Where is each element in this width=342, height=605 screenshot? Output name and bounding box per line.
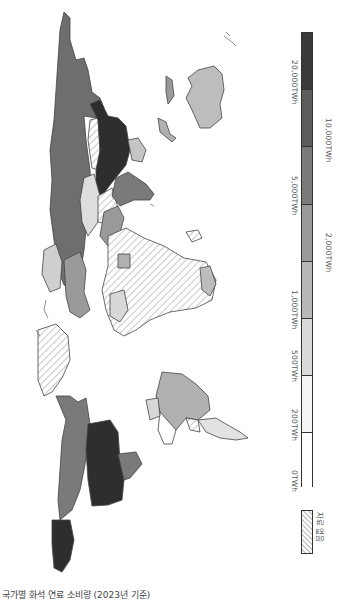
tick-label-10000: 10,000TWh [324, 118, 333, 163]
legend-seg-5000-10000 [302, 146, 312, 204]
region-andes [186, 418, 200, 432]
region-europe [64, 252, 90, 318]
tick-label-500: 500TWh [290, 350, 299, 382]
legend-seg-10000-20000 [302, 89, 312, 146]
no-data-label: 자료 없음 [315, 512, 326, 542]
region-japan [166, 76, 174, 104]
map-caption: 국가별 화석 연료 소비량 (2023년 기준) [2, 588, 150, 601]
legend-seg-500-1000 [302, 318, 312, 375]
tick-label-20000: 20,000TWh [290, 60, 299, 105]
region-australia [186, 66, 224, 128]
legend-seg-2000-5000 [302, 204, 312, 261]
region-greenland [38, 324, 70, 396]
region-venezuela [146, 398, 160, 420]
tick-label-2000: 2,000TWh [324, 233, 333, 273]
no-data-swatch [301, 510, 313, 554]
world-map [0, 0, 280, 580]
region-nigeria [118, 254, 130, 268]
region-india [112, 172, 154, 206]
island-sri-lanka [150, 204, 154, 206]
legend-seg-1000-2000 [302, 261, 312, 318]
tick-label-200: 200TWh [290, 409, 299, 441]
legend-seg-20000-plus [302, 33, 312, 89]
legend-seg-200-500 [302, 375, 312, 432]
legend-color-bar [301, 32, 313, 487]
legend-seg-0-200 [302, 432, 312, 487]
region-se-asia [128, 138, 146, 162]
region-madagascar [186, 230, 202, 242]
region-argentina [198, 418, 248, 440]
island-uk [44, 300, 48, 318]
tick-label-1000: 1,000TWh [290, 290, 299, 330]
region-alaska [52, 520, 74, 572]
region-canada [56, 396, 90, 520]
tick-label-5000: 5,000TWh [290, 176, 299, 216]
region-indonesia [158, 118, 176, 142]
tick-label-0: 0TWh [290, 470, 299, 492]
region-usa [86, 420, 124, 506]
island-new-zealand [224, 32, 236, 46]
